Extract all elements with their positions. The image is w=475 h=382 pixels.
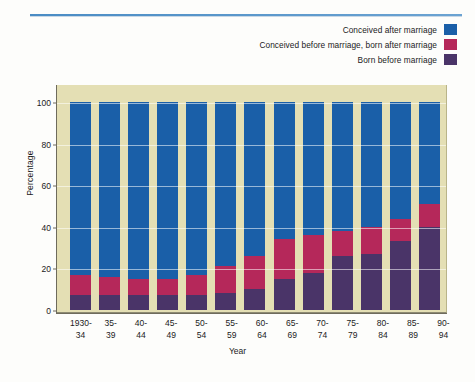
bar-segment [215, 266, 236, 293]
x-axis-tick-label: 85-89 [403, 318, 424, 341]
bar-segment [215, 102, 236, 266]
legend-swatch-blue [444, 24, 457, 35]
y-axis-tick-label: 60 [42, 181, 51, 191]
legend-item-conceived-before-born-after: Conceived before marriage, born after ma… [259, 39, 457, 50]
header-rule-shadow [30, 16, 462, 17]
x-axis-tick-label: 40-44 [131, 318, 152, 341]
y-axis-tick-label: 40 [42, 223, 51, 233]
plot-inner [57, 85, 446, 312]
legend-item-conceived-after-marriage: Conceived after marriage [343, 24, 457, 35]
bar-1930-34[interactable] [70, 84, 91, 310]
bar-segment [419, 227, 440, 310]
bar-segment [157, 102, 178, 279]
legend-label: Conceived before marriage, born after ma… [259, 40, 437, 50]
x-axis-tick-label: 65-69 [282, 318, 303, 341]
bar-segment [361, 227, 382, 254]
bar-segment [186, 275, 207, 296]
bar-segment [390, 241, 411, 310]
bar-65-69[interactable] [274, 84, 295, 310]
bar-60-64[interactable] [244, 84, 265, 310]
chart-legend: Conceived after marriage Conceived befor… [259, 24, 457, 65]
bar-segment [332, 231, 353, 256]
bar-segment [186, 295, 207, 310]
bar-segment [128, 102, 149, 279]
bar-segment [157, 279, 178, 296]
bar-segment [244, 102, 265, 256]
x-axis-line [56, 313, 447, 314]
legend-swatch-crimson [444, 39, 457, 50]
bar-segment [419, 204, 440, 227]
x-axis-tick-label: 1930-34 [70, 318, 91, 341]
bar-segment [390, 219, 411, 242]
x-axis-tick-label: 70-74 [312, 318, 333, 341]
x-axis-tick-labels: 1930-3435-3940-4445-4950-5455-5960-6465-… [70, 318, 454, 341]
bar-80-84[interactable] [361, 84, 382, 310]
x-axis-title: Year [0, 346, 475, 356]
bar-40-44[interactable] [128, 84, 149, 310]
y-axis-tick-label: 0 [46, 306, 51, 316]
bar-85-89[interactable] [390, 84, 411, 310]
bar-segment [303, 102, 324, 235]
x-axis-tick-label: 55-59 [221, 318, 242, 341]
legend-label: Born before marriage [358, 55, 437, 65]
bar-segment [303, 273, 324, 310]
x-axis-tick-label: 90-94 [433, 318, 454, 341]
x-axis-tick-label: 35-39 [100, 318, 121, 341]
y-axis-tick-label: 20 [42, 264, 51, 274]
legend-swatch-purple [444, 54, 457, 65]
bar-segment [186, 102, 207, 275]
bar-45-49[interactable] [157, 84, 178, 310]
bar-segment [303, 235, 324, 272]
bar-75-79[interactable] [332, 84, 353, 310]
bar-segment [128, 279, 149, 296]
bar-segment [274, 239, 295, 279]
bar-segment [99, 277, 120, 296]
legend-label: Conceived after marriage [343, 25, 437, 35]
x-axis-tick-label: 75-79 [342, 318, 363, 341]
bar-segment [70, 102, 91, 275]
bar-90-94[interactable] [419, 84, 440, 310]
chart-page: Conceived after marriage Conceived befor… [0, 0, 475, 382]
bars-container [70, 85, 440, 312]
bar-segment [361, 102, 382, 227]
x-axis-tick-label: 60-64 [252, 318, 273, 341]
bar-segment [361, 254, 382, 310]
bar-segment [70, 275, 91, 296]
x-axis-tick-label: 45-49 [161, 318, 182, 341]
x-axis-tick-label: 80-84 [373, 318, 394, 341]
bar-segment [390, 102, 411, 218]
bar-segment [244, 256, 265, 289]
legend-item-born-before-marriage: Born before marriage [358, 54, 457, 65]
bar-segment [99, 295, 120, 310]
bar-50-54[interactable] [186, 84, 207, 310]
x-axis-tick-label: 50-54 [191, 318, 212, 341]
bar-55-59[interactable] [215, 84, 236, 310]
bar-segment [419, 102, 440, 204]
bar-segment [274, 279, 295, 310]
plot-area [57, 85, 447, 313]
bar-segment [70, 295, 91, 310]
bar-segment [244, 289, 265, 310]
bar-segment [128, 295, 149, 310]
bar-segment [332, 256, 353, 310]
bar-segment [274, 102, 295, 239]
bar-70-74[interactable] [303, 84, 324, 310]
bar-segment [157, 295, 178, 310]
bar-segment [99, 102, 120, 277]
bar-35-39[interactable] [99, 84, 120, 310]
y-axis-tick-label: 100 [37, 98, 51, 108]
bar-segment [332, 102, 353, 231]
bar-segment [215, 293, 236, 310]
y-axis-title: Percentage [25, 138, 35, 208]
y-axis-tick-label: 80 [42, 140, 51, 150]
